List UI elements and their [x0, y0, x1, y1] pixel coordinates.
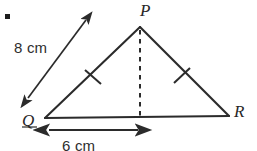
vertex-label-q: Q [22, 112, 34, 129]
dimension-label-side-pq: 8 cm [14, 40, 47, 55]
dimension-label-base-segment: 6 cm [62, 138, 95, 151]
side-QP [45, 27, 140, 118]
vertex-label-p: P [140, 2, 150, 19]
triangle-outline [45, 27, 229, 118]
side-PR [140, 27, 229, 116]
vertex-label-r: R [234, 103, 244, 120]
base-QR [45, 116, 229, 118]
geometry-figure: P Q R 8 cm 6 cm [0, 0, 257, 151]
triangle-diagram-svg [0, 0, 257, 151]
